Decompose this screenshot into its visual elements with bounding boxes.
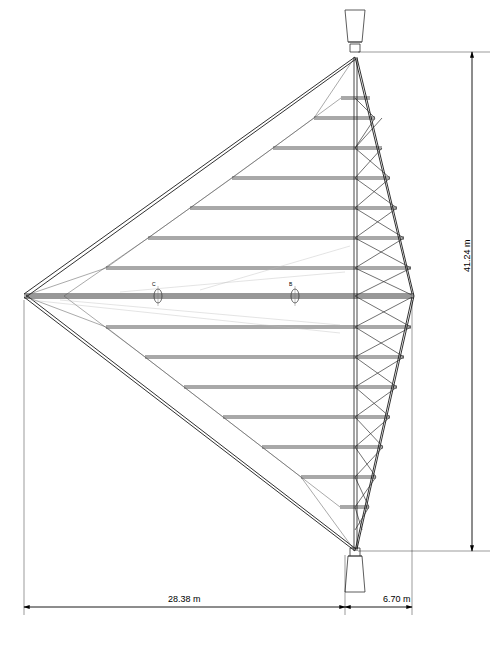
right-lattice-lower [355, 296, 414, 530]
truss-elevation-svg [0, 0, 502, 654]
node-label-mid-chord: B [289, 281, 292, 287]
dimension-label-width-main: 28.38 m [168, 594, 201, 604]
node-label-left-chord: C [152, 281, 156, 287]
bottom-support-box [345, 548, 365, 592]
diagram-canvas: 28.38 m 6.70 m 41.24 m C B [0, 0, 502, 654]
lower-horizontal-rungs [106, 326, 411, 508]
dimension-extension-lines [24, 52, 490, 615]
dimension-label-width-right: 6.70 m [383, 594, 411, 604]
top-support-box [345, 10, 365, 52]
dimension-label-height-total: 41.24 m [462, 239, 472, 272]
